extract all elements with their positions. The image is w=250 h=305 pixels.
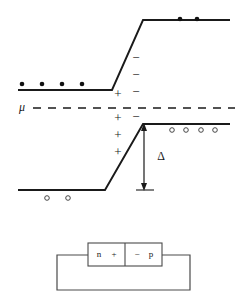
positive-charge-sign: + xyxy=(114,86,121,101)
negative-charge-sign: − xyxy=(132,84,139,99)
band-diagram-group: μ + + + + − − − − xyxy=(18,17,235,201)
mu-label: μ xyxy=(18,100,25,114)
p-region-label: p xyxy=(149,249,154,259)
hole-circle xyxy=(199,128,204,133)
negative-charge-sign: − xyxy=(132,50,139,65)
electron-dot xyxy=(195,17,200,22)
n-region-label: n xyxy=(97,249,102,259)
circuit-schematic-group: n + − p xyxy=(57,243,190,290)
electron-dot xyxy=(178,17,183,22)
electron-dot xyxy=(40,82,45,87)
bias-minus-label: − xyxy=(134,249,139,259)
hole-circle xyxy=(184,128,189,133)
negative-charge-sign: − xyxy=(132,67,139,82)
bias-plus-label: + xyxy=(111,249,116,259)
hole-circle xyxy=(66,196,71,201)
positive-charge-sign: + xyxy=(114,110,121,125)
electron-dot xyxy=(20,82,25,87)
band-gap-label: Δ xyxy=(157,149,165,163)
valence-band-line xyxy=(18,124,230,190)
electron-dot xyxy=(80,82,85,87)
hole-circle xyxy=(213,128,218,133)
electron-dot xyxy=(60,82,65,87)
negative-charge-sign: − xyxy=(132,109,139,124)
hole-circle xyxy=(45,196,50,201)
band-diagram-svg: μ + + + + − − − − xyxy=(0,0,250,305)
positive-charge-sign: + xyxy=(114,127,121,142)
positive-charge-sign: + xyxy=(114,144,121,159)
conduction-band-line xyxy=(18,20,230,90)
hole-circle xyxy=(170,128,175,133)
figure-root: μ + + + + − − − − xyxy=(0,0,250,305)
